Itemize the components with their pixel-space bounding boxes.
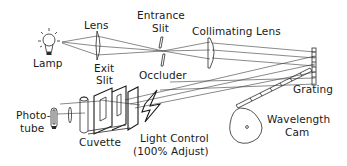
lens-icon <box>96 31 100 60</box>
label-phototube-1: Photo- <box>16 110 51 121</box>
occluder-icon <box>128 87 138 130</box>
label-occluder: Occluder <box>139 70 187 81</box>
label-light-control-2: (100% Adjust) <box>133 146 209 157</box>
entrance-slit-icon <box>159 37 165 66</box>
label-exit-slit-2: Slit <box>96 75 113 86</box>
label-lens: Lens <box>84 20 109 31</box>
label-phototube-2: tube <box>20 123 44 134</box>
label-exit-slit-1: Exit <box>94 63 114 74</box>
grating-icon <box>312 48 316 85</box>
exit-slit-icon <box>88 86 130 134</box>
label-cuvette: Cuvette <box>79 137 121 148</box>
label-entrance-slit-1: Entrance <box>137 10 185 21</box>
spectrophotometer-diagram: Lamp Lens Entrance Slit Collimating Lens… <box>0 0 347 166</box>
label-wavelength-cam-1: Wavelength <box>267 114 330 125</box>
label-light-control-1: Light Control <box>140 133 209 144</box>
label-entrance-slit-2: Slit <box>152 23 169 34</box>
label-grating: Grating <box>293 84 333 95</box>
lamp-icon <box>38 28 60 55</box>
label-lamp: Lamp <box>33 58 63 69</box>
wavelength-cam-icon <box>230 108 262 143</box>
light-control-icon <box>142 90 160 122</box>
label-wavelength-cam-2: Cam <box>285 127 309 138</box>
label-collimating-lens: Collimating Lens <box>192 26 281 37</box>
